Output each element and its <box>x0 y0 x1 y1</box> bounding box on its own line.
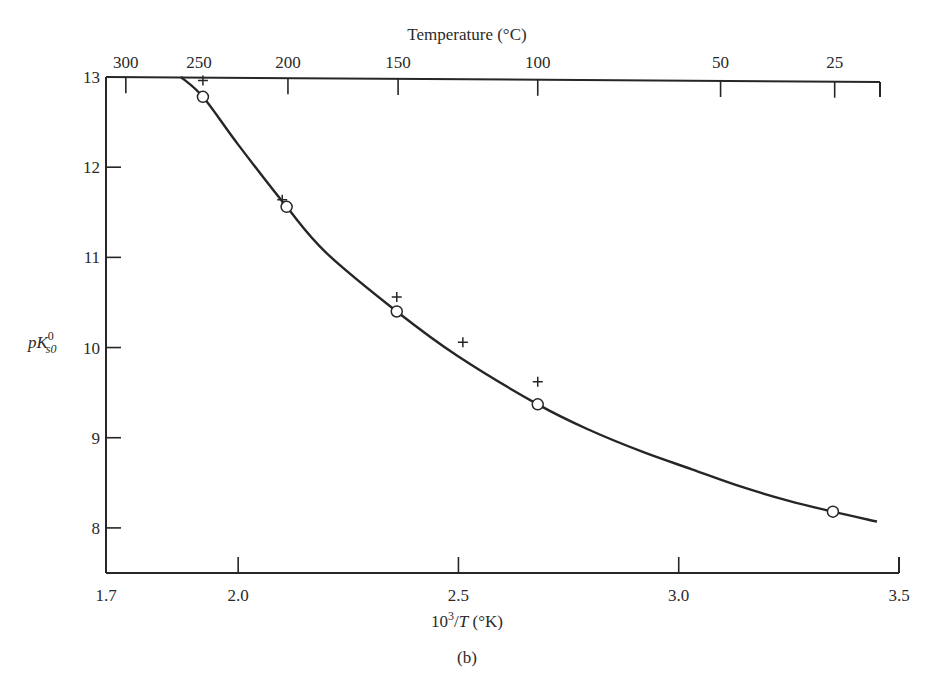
y-tick-label: 12 <box>83 158 100 177</box>
plot-area: 1.72.02.53.03.58910111213300250200150100… <box>27 25 910 667</box>
top-tick-label: 50 <box>712 53 729 72</box>
top-tick-label: 25 <box>826 53 843 72</box>
x-tick-label: 3.0 <box>668 586 689 605</box>
x-tick-label: 2.0 <box>228 586 249 605</box>
circle-marker <box>391 306 402 317</box>
circle-marker <box>197 91 208 102</box>
top-tick-label: 200 <box>275 53 301 72</box>
y-axis-title: pK0s0 <box>27 329 57 356</box>
top-tick-label: 150 <box>385 53 411 72</box>
top-tick-label: 250 <box>186 53 212 72</box>
fitted-curve-line <box>181 77 877 522</box>
top-tick-label: 300 <box>113 53 139 72</box>
circle-marker <box>827 506 838 517</box>
circle-marker <box>532 399 543 410</box>
chart-figure: 1.72.02.53.03.58910111213300250200150100… <box>0 0 934 694</box>
figure-caption: (b) <box>457 648 477 667</box>
top-axis-title: Temperature (°C) <box>407 25 526 44</box>
bottom-axis-title: 103/T (°K) <box>431 609 503 631</box>
x-tick-label: 3.5 <box>888 586 909 605</box>
y-tick-label: 9 <box>92 429 101 448</box>
top-axis-line <box>106 77 880 82</box>
plus-marker <box>392 292 402 302</box>
y-tick-label: 10 <box>83 339 100 358</box>
y-tick-label: 11 <box>84 248 100 267</box>
x-tick-label: 2.5 <box>448 586 469 605</box>
top-tick-label: 100 <box>525 53 551 72</box>
y-tick-label: 8 <box>92 519 101 538</box>
x-tick-label: 1.7 <box>95 586 117 605</box>
circle-marker <box>281 201 292 212</box>
y-tick-label: 13 <box>83 68 100 87</box>
plus-marker <box>458 337 468 347</box>
plus-marker <box>533 377 543 387</box>
